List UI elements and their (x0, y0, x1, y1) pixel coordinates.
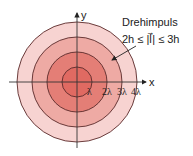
y-axis-label: y (81, 9, 87, 21)
annotation-condition: 2h ≤ |l⃗| ≤ 3h (122, 32, 179, 45)
angular-momentum-diagram: x y λ 2λ 3λ 4λ Drehimpuls 2h ≤ |l⃗| ≤ 3h (0, 0, 193, 156)
tick-4: 4λ (131, 86, 141, 97)
x-axis-label: x (149, 76, 155, 88)
tick-2: 2λ (102, 86, 112, 97)
tick-1: λ (87, 86, 92, 97)
tick-3: 3λ (117, 86, 127, 97)
annotation-title: Drehimpuls (122, 16, 178, 28)
